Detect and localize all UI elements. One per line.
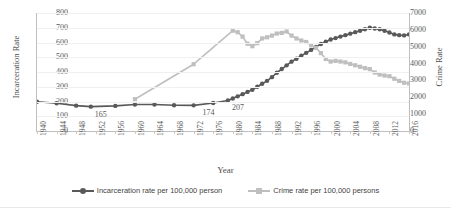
series-marker (74, 103, 78, 107)
series-marker (152, 102, 156, 106)
series-marker (113, 104, 117, 108)
legend-square-icon (248, 187, 270, 194)
series-marker (338, 34, 342, 38)
series-marker (289, 59, 293, 63)
gridline (37, 43, 409, 44)
series-marker (275, 31, 279, 35)
series-marker (236, 30, 240, 34)
series-marker (387, 74, 391, 78)
x-axis-title: Year (0, 165, 451, 175)
series-marker (250, 88, 254, 92)
gridline (37, 13, 409, 14)
series-marker (397, 79, 401, 83)
series-marker (353, 63, 357, 67)
data-point-label: 174 (203, 108, 215, 117)
series-marker (407, 32, 409, 36)
gridline (37, 72, 409, 73)
plot-area (37, 13, 409, 131)
series-marker (270, 33, 274, 37)
series-marker (284, 63, 288, 67)
series-marker (309, 48, 313, 52)
gridline (37, 57, 409, 58)
series-marker (172, 103, 176, 107)
series-marker (231, 96, 235, 100)
series-marker (363, 66, 367, 70)
gridline (37, 116, 409, 117)
series-marker (382, 73, 386, 77)
series-marker (328, 37, 332, 41)
series-marker (314, 46, 318, 50)
y-axis-right-tick-label: 2000 (410, 93, 426, 101)
series-marker (294, 36, 298, 40)
series-marker (397, 33, 401, 37)
series-line (135, 31, 409, 99)
legend-item[interactable]: Incarceration rate per 100,000 person (72, 186, 223, 195)
series-marker (265, 79, 269, 83)
y-axis-right-tick-label: 4000 (410, 60, 426, 68)
series-marker (333, 59, 337, 63)
gridline (37, 102, 409, 103)
y-axis-right-tick-label: 7000 (410, 9, 426, 17)
y-axis-left-title: Incarceration Rate (11, 24, 21, 110)
y-axis-right-tick-label: 6000 (410, 26, 426, 34)
data-point-label: 165 (95, 110, 107, 119)
page-rule (0, 207, 451, 208)
legend-label: Incarceration rate per 100,000 person (97, 186, 223, 195)
series-marker (280, 67, 284, 71)
series-marker (353, 30, 357, 34)
series-marker (250, 44, 254, 48)
gridline (37, 28, 409, 29)
series-marker (285, 29, 289, 33)
series-marker (89, 104, 93, 108)
series-marker (319, 51, 323, 55)
series-marker (260, 36, 264, 40)
series-marker (240, 35, 244, 39)
series-marker (240, 92, 244, 96)
series-marker (387, 30, 391, 34)
series-marker (133, 102, 137, 106)
chart-container: Incarceration Rate Crime Rate Year 01002… (0, 0, 451, 209)
legend-circle-icon (72, 187, 94, 194)
series-marker (289, 33, 293, 37)
series-marker (231, 29, 235, 33)
series-marker (407, 81, 409, 85)
series-marker (191, 103, 195, 107)
series-marker (338, 59, 342, 63)
chart-legend: Incarceration rate per 100,000 personCri… (0, 186, 451, 195)
series-marker (260, 82, 264, 86)
series-marker (402, 81, 406, 85)
series-marker (309, 43, 313, 47)
series-marker (280, 31, 284, 35)
series-marker (392, 32, 396, 36)
gridline (37, 87, 409, 88)
series-marker (402, 33, 406, 37)
series-marker (270, 75, 274, 79)
series-marker (235, 94, 239, 98)
legend-label: Crime rate per 100,000 persons (273, 186, 379, 195)
series-marker (358, 29, 362, 33)
series-marker (265, 35, 269, 39)
series-marker (304, 51, 308, 55)
series-marker (245, 90, 249, 94)
series-marker (192, 62, 196, 66)
series-marker (343, 33, 347, 37)
series-marker (358, 65, 362, 69)
y-axis-right-tick-label: 3000 (410, 76, 426, 84)
x-axis-tick-label: 2016 (412, 121, 420, 136)
series-marker (329, 59, 333, 63)
series-marker (348, 62, 352, 66)
series-marker (382, 29, 386, 33)
y-axis-right-tick-label: 1000 (410, 110, 426, 118)
y-axis-right-tick-label: 5000 (410, 43, 426, 51)
legend-item[interactable]: Crime rate per 100,000 persons (248, 186, 379, 195)
y-axis-right-title: Crime Rate (434, 24, 444, 110)
data-point-label: 207 (232, 103, 244, 112)
series-marker (392, 77, 396, 81)
series-marker (378, 72, 382, 76)
series-marker (333, 36, 337, 40)
series-marker (368, 67, 372, 71)
series-marker (348, 31, 352, 35)
series-marker (343, 60, 347, 64)
x-axis-tick-mark (409, 131, 410, 134)
